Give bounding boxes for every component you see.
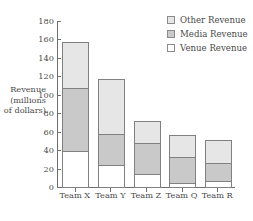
x-tick-mark xyxy=(182,188,183,192)
bar-team-z[interactable] xyxy=(134,121,161,187)
x-tick-mark xyxy=(217,188,218,192)
y-tick-mark xyxy=(57,113,61,114)
y-tick-mark xyxy=(57,187,61,188)
legend-item-other-revenue[interactable]: Other Revenue xyxy=(167,13,248,27)
y-tick-label: 60 xyxy=(30,128,54,136)
bar-segment-other-revenue[interactable] xyxy=(134,121,161,144)
y-tick-mark xyxy=(57,132,61,133)
bar-segment-media-revenue[interactable] xyxy=(98,134,125,166)
bar-segment-media-revenue[interactable] xyxy=(62,88,89,153)
bar-segment-venue-revenue[interactable] xyxy=(205,181,232,188)
legend-label: Venue Revenue xyxy=(180,43,247,53)
bar-segment-media-revenue[interactable] xyxy=(205,163,232,181)
bar-segment-venue-revenue[interactable] xyxy=(98,165,125,188)
bar-segment-venue-revenue[interactable] xyxy=(169,183,196,188)
bar-segment-media-revenue[interactable] xyxy=(134,143,161,175)
y-tick-label: 100 xyxy=(30,91,54,99)
y-tick-label: 140 xyxy=(30,54,54,62)
stacked-bar-chart: Revenue (millions of dollars) 0204060801… xyxy=(0,0,253,221)
bar-segment-other-revenue[interactable] xyxy=(205,140,232,164)
y-tick-label: 160 xyxy=(30,35,54,43)
x-tick-mark xyxy=(110,188,111,192)
y-tick-mark xyxy=(57,150,61,151)
bar-team-r[interactable] xyxy=(205,140,232,187)
legend-item-media-revenue[interactable]: Media Revenue xyxy=(167,27,248,41)
bar-segment-other-revenue[interactable] xyxy=(98,79,125,134)
y-tick-label: 80 xyxy=(30,109,54,117)
bar-segment-media-revenue[interactable] xyxy=(169,157,196,185)
bar-segment-venue-revenue[interactable] xyxy=(62,151,89,188)
x-label-team-r: Team R xyxy=(194,191,240,200)
x-tick-mark xyxy=(146,188,147,192)
x-tick-mark xyxy=(75,188,76,192)
y-tick-label: 20 xyxy=(30,165,54,173)
y-tick-label: 40 xyxy=(30,146,54,154)
bar-segment-venue-revenue[interactable] xyxy=(134,174,161,188)
legend-label: Other Revenue xyxy=(180,15,246,25)
y-tick-label: 120 xyxy=(30,72,54,80)
legend-swatch-icon xyxy=(167,44,175,52)
bar-segment-other-revenue[interactable] xyxy=(169,135,196,158)
y-tick-mark xyxy=(57,169,61,170)
y-tick-mark xyxy=(57,39,61,40)
legend-swatch-icon xyxy=(167,30,175,38)
bar-segment-other-revenue[interactable] xyxy=(62,42,89,88)
y-tick-mark xyxy=(57,95,61,96)
bar-team-y[interactable] xyxy=(98,79,125,187)
bar-team-q[interactable] xyxy=(169,135,196,187)
y-tick-label: 0 xyxy=(30,183,54,191)
y-tick-label: 180 xyxy=(30,17,54,25)
legend-swatch-icon xyxy=(167,16,175,24)
y-tick-mark xyxy=(57,58,61,59)
legend-item-venue-revenue[interactable]: Venue Revenue xyxy=(167,41,248,55)
chart-legend: Other RevenueMedia RevenueVenue Revenue xyxy=(167,13,248,55)
legend-label: Media Revenue xyxy=(180,29,248,39)
y-tick-mark xyxy=(57,76,61,77)
bar-team-x[interactable] xyxy=(62,42,89,187)
y-tick-mark xyxy=(57,21,61,22)
